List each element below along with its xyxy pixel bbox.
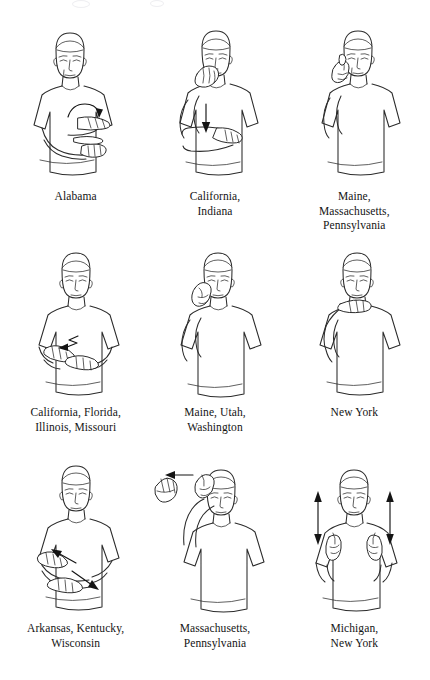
figure-cell-sign-3: Maine, Massachusetts, Pennsylvania	[285, 22, 423, 233]
asl-sign-figure-2	[146, 22, 284, 182]
caption-line: Arkansas, Kentucky,	[27, 621, 124, 636]
caption-line: Pennsylvania	[180, 636, 251, 651]
figure-cell-sign-9: Michigan, New York	[285, 454, 423, 650]
caption-line: Pennsylvania	[319, 218, 390, 233]
caption-line: Michigan,	[330, 621, 378, 636]
caption-line: California, Florida,	[30, 405, 120, 420]
caption-line: Wisconsin	[27, 636, 124, 651]
caption-line: Alabama	[55, 189, 97, 204]
figure-caption-sign-8: Massachusetts, Pennsylvania	[180, 621, 251, 650]
figure-caption-sign-1: Alabama	[55, 189, 97, 204]
figure-caption-sign-4: California, Florida, Illinois, Missouri	[30, 405, 120, 434]
asl-sign-figure-9	[285, 454, 423, 614]
illustration-plate: Alabama	[0, 0, 430, 680]
figure-cell-sign-6: New York	[285, 238, 423, 420]
figure-cell-sign-4: California, Florida, Illinois, Missouri	[7, 238, 145, 434]
figure-caption-sign-6: New York	[331, 405, 378, 420]
figure-caption-sign-7: Arkansas, Kentucky, Wisconsin	[27, 621, 124, 650]
asl-sign-figure-4	[7, 238, 145, 398]
caption-line: New York	[330, 636, 378, 651]
caption-line: Washington	[184, 420, 246, 435]
caption-line: California,	[190, 189, 241, 204]
figure-cell-sign-2: California, Indiana	[146, 22, 284, 218]
asl-sign-figure-8	[146, 454, 284, 614]
asl-sign-figure-7	[7, 454, 145, 614]
figure-cell-sign-8: Massachusetts, Pennsylvania	[146, 454, 284, 650]
caption-line: Maine,	[319, 189, 390, 204]
asl-sign-figure-1	[7, 22, 145, 182]
figure-caption-sign-9: Michigan, New York	[330, 621, 378, 650]
asl-sign-figure-5	[146, 238, 284, 398]
caption-line: Indiana	[190, 204, 241, 219]
figure-row-2: California, Florida, Illinois, Missouri	[6, 238, 424, 454]
caption-line: Massachusetts,	[319, 204, 390, 219]
caption-line: Maine, Utah,	[184, 405, 246, 420]
figure-row-1: Alabama	[6, 22, 424, 238]
caption-line: New York	[331, 405, 378, 420]
asl-sign-figure-3	[285, 22, 423, 182]
figure-caption-sign-5: Maine, Utah, Washington	[184, 405, 246, 434]
figure-cell-sign-1: Alabama	[7, 22, 145, 204]
figure-caption-sign-3: Maine, Massachusetts, Pennsylvania	[319, 189, 390, 233]
figure-row-3: Arkansas, Kentucky, Wisconsin	[6, 454, 424, 670]
figure-cell-sign-5: Maine, Utah, Washington	[146, 238, 284, 434]
caption-line: Massachusetts,	[180, 621, 251, 636]
asl-sign-figure-6	[285, 238, 423, 398]
caption-line: Illinois, Missouri	[30, 420, 120, 435]
figure-cell-sign-7: Arkansas, Kentucky, Wisconsin	[7, 454, 145, 650]
figure-caption-sign-2: California, Indiana	[190, 189, 241, 218]
